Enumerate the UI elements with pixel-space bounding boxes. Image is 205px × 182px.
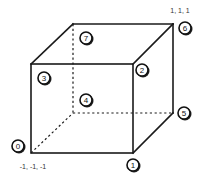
vertex-5: 5	[178, 107, 192, 121]
visible-edges	[31, 24, 173, 153]
vertex-0: 0	[12, 140, 26, 154]
bottom-right-depth-edge	[133, 113, 173, 153]
max-corner-coordinates: 1, 1, 1	[170, 7, 190, 14]
vertex-2: 2	[136, 64, 150, 78]
top-left-depth-edge	[31, 24, 73, 64]
vertex-label: 0	[16, 142, 21, 151]
vertex-label: 2	[140, 66, 145, 75]
vertex-label: 5	[182, 109, 187, 118]
cube-diagram: 0 1 2 3 4 5 6 7 1, 1, 1 -1, -1, -1	[0, 0, 205, 182]
min-corner-coordinates: -1, -1, -1	[20, 163, 47, 170]
vertex-label: 3	[42, 74, 47, 83]
vertex-7: 7	[80, 32, 94, 46]
hidden-edge-depth	[31, 113, 73, 153]
vertex-label: 4	[84, 96, 89, 105]
vertex-4: 4	[80, 94, 94, 108]
vertex-label: 7	[84, 34, 89, 43]
vertex-label: 6	[183, 24, 188, 33]
vertex-3: 3	[38, 72, 52, 86]
top-right-depth-edge	[133, 24, 173, 64]
vertex-6: 6	[179, 22, 193, 36]
vertex-1: 1	[127, 159, 141, 173]
vertex-label: 1	[131, 161, 136, 170]
